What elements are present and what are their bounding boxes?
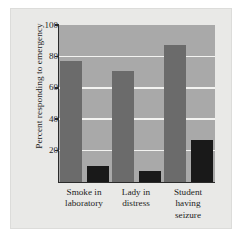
x-category-label: Lady indistress (106, 187, 166, 210)
x-category-label-line: laboratory (54, 198, 114, 209)
x-category-label-line: having (158, 198, 218, 209)
bar (87, 166, 109, 182)
gridline (59, 87, 215, 89)
x-category-label-line: Smoke in (54, 187, 114, 198)
x-category-label: Smoke inlaboratory (54, 187, 114, 210)
figure-frame: Percent responding to emergency 20406080… (11, 9, 231, 228)
bar (60, 61, 82, 182)
x-category-label-line: seizure (158, 210, 218, 221)
x-category-label: Studenthavingseizure (158, 187, 218, 221)
y-tick-mark (55, 24, 59, 26)
x-axis-category-labels: Smoke inlaboratoryLady indistressStudent… (58, 187, 215, 231)
y-tick-mark (55, 87, 59, 89)
plot-area (58, 25, 215, 183)
bar (191, 140, 213, 182)
x-category-label-line: Student (158, 187, 218, 198)
y-tick-mark (55, 118, 59, 120)
bar (139, 171, 161, 182)
bar (112, 71, 134, 182)
gridline (59, 118, 215, 120)
bar (164, 45, 186, 182)
y-tick-mark (55, 150, 59, 152)
x-category-label-line: Lady in (106, 187, 166, 198)
x-category-label-line: distress (106, 198, 166, 209)
gridline (59, 56, 215, 58)
y-tick-mark (55, 56, 59, 58)
